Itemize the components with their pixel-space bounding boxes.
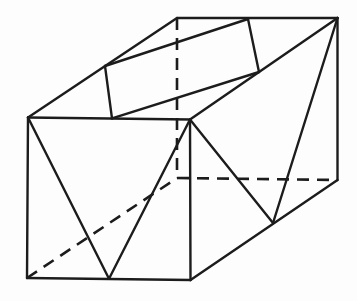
- edge-right-triangle-left-side: [190, 120, 273, 224]
- edge-top-right-depth-edge: [190, 18, 338, 120]
- edge-top-parallelogram-right-side: [248, 19, 259, 72]
- geometry-figure: [0, 0, 357, 301]
- edge-front-left-edge: [27, 118, 28, 279]
- edge-right-triangle-right-side: [273, 18, 338, 223]
- edge-hidden-back-bottom-edge: [177, 178, 338, 180]
- edge-front-triangle-left-side: [28, 118, 109, 279]
- edge-bottom-right-depth-edge: [191, 180, 338, 280]
- edge-top-parallelogram-left-side: [105, 66, 112, 118]
- edge-front-top-edge: [28, 118, 190, 120]
- edge-top-parallelogram-bottom-side: [112, 72, 259, 118]
- edge-front-triangle-right-side: [109, 120, 190, 279]
- edge-front-right-edge: [190, 120, 191, 281]
- edge-top-left-depth-edge: [28, 18, 177, 118]
- figure-container: [0, 0, 357, 301]
